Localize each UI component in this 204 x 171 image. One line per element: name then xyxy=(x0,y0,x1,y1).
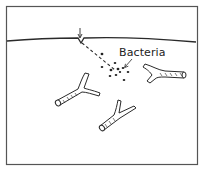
bacteria-label-arrow xyxy=(125,59,132,68)
tube-left xyxy=(54,73,100,107)
surface-line xyxy=(7,38,196,43)
entry-arrow xyxy=(78,28,82,38)
diagram-figure: Bacteria xyxy=(0,0,204,171)
bacteria-label: Bacteria xyxy=(119,47,166,58)
diagram-canvas xyxy=(0,0,204,171)
frame xyxy=(7,7,198,165)
puncture-path xyxy=(82,43,115,70)
tube-right xyxy=(143,64,186,83)
tube-center xyxy=(98,100,136,132)
